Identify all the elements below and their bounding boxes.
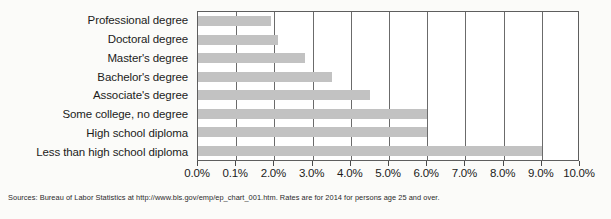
bars-layer [198, 12, 578, 160]
axis-tick-mark [350, 161, 351, 166]
axis-tick-label: 2.0% [261, 167, 286, 179]
axis-tick-label: 4.0% [337, 167, 362, 179]
axis-tick-mark [503, 161, 504, 166]
axis-tick-mark [426, 161, 427, 166]
bar [198, 127, 427, 137]
category-label-cell: Doctoral degree [0, 30, 193, 49]
bar [198, 35, 278, 45]
axis-tick-label: 3.0% [299, 167, 324, 179]
axis-tick-label: 7.0% [452, 167, 477, 179]
category-label-cell: Bachelor's degree [0, 67, 193, 86]
axis-tick-mark [464, 161, 465, 166]
category-label-cell: Some college, no degree [0, 105, 193, 124]
bar-row [198, 31, 578, 50]
category-label: Professional degree [88, 14, 188, 26]
axis-tick-mark [579, 161, 580, 166]
axis-tick-mark [273, 161, 274, 166]
category-label-cell: Associate's degree [0, 86, 193, 105]
category-label-cell: High school diploma [0, 124, 193, 143]
bar [198, 146, 542, 156]
axis-tick-mark [541, 161, 542, 166]
axis-tick-mark [235, 161, 236, 166]
category-label: High school diploma [86, 127, 188, 139]
value-axis: 0.0%0.1%2.0%3.0%4.0%5.0%6.0%7.0%8.0%9.0%… [197, 161, 579, 187]
bar-chart-figure: Professional degreeDoctoral degreeMaster… [0, 0, 611, 219]
axis-tick-label: 8.0% [490, 167, 515, 179]
plot-area [197, 11, 579, 161]
axis-tick-mark [197, 161, 198, 166]
category-label-cell: Professional degree [0, 11, 193, 30]
axis-tick-mark [388, 161, 389, 166]
bar-row [198, 123, 578, 142]
bar-row [198, 68, 578, 87]
category-label: Master's degree [107, 52, 188, 64]
bar-row [198, 86, 578, 105]
bar-row [198, 49, 578, 68]
category-axis: Professional degreeDoctoral degreeMaster… [0, 11, 193, 161]
axis-tick-label: 10.0% [563, 167, 595, 179]
axis-tick-label: 5.0% [375, 167, 400, 179]
axis-tick-label: 0.1% [222, 167, 247, 179]
category-label: Some college, no degree [62, 108, 188, 120]
bar-row [198, 105, 578, 124]
category-label-cell: Less than high school diploma [0, 142, 193, 161]
axis-tick-label: 6.0% [413, 167, 438, 179]
bar [198, 109, 427, 119]
category-label: Associate's degree [93, 89, 188, 101]
axis-tick-label: 0.0% [184, 167, 209, 179]
bar [198, 53, 305, 63]
bar-row [198, 142, 578, 161]
bar [198, 72, 332, 82]
category-label: Less than high school diploma [36, 146, 188, 158]
bar [198, 16, 271, 26]
category-label: Doctoral degree [108, 33, 188, 45]
bar-row [198, 12, 578, 31]
source-note: Sources: Bureau of Labor Statistics at h… [8, 193, 440, 202]
axis-tick-mark [312, 161, 313, 166]
bar [198, 90, 370, 100]
axis-tick-label: 9.0% [528, 167, 553, 179]
category-label: Bachelor's degree [97, 71, 188, 83]
category-label-cell: Master's degree [0, 49, 193, 68]
